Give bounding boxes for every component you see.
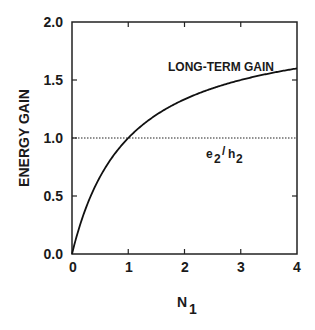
x-axis-label-main: N [177, 294, 187, 310]
ratio-slash: / [222, 144, 226, 158]
ratio-e: e [206, 147, 213, 161]
long-term-gain-label: LONG-TERM GAIN [168, 60, 274, 74]
y-tick-labels: 0.0 0.5 1.0 1.5 2.0 [44, 14, 64, 262]
x-axis-label-sub: 1 [189, 301, 197, 317]
y-tick-0: 0.0 [44, 246, 64, 262]
ratio-h: h [228, 147, 235, 161]
energy-gain-chart: 0 1 2 3 4 0.0 0.5 1.0 1.5 2.0 LONG-TERM … [0, 0, 315, 330]
x-tick-3: 3 [237, 259, 245, 275]
long-term-gain-curve [72, 68, 297, 254]
x-tick-0: 0 [69, 259, 77, 275]
ratio-sub-2: 2 [236, 152, 243, 166]
y-tick-4: 2.0 [44, 14, 64, 30]
ratio-sub-1: 2 [214, 152, 221, 166]
ratio-label: e 2 / h 2 [206, 144, 243, 166]
x-tick-1: 1 [125, 259, 133, 275]
x-axis-label: N 1 [177, 294, 197, 317]
y-axis-label: ENERGY GAIN [16, 89, 32, 187]
y-tick-2: 1.0 [44, 130, 64, 146]
x-tick-2: 2 [181, 259, 189, 275]
x-tick-labels: 0 1 2 3 4 [69, 259, 301, 275]
x-tick-4: 4 [293, 259, 301, 275]
y-tick-1: 0.5 [44, 188, 64, 204]
y-tick-3: 1.5 [44, 72, 64, 88]
